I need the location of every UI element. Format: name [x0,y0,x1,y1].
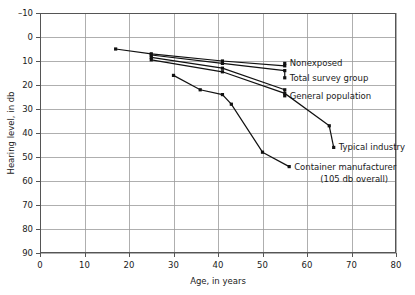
y-tick-label: 90 [22,248,33,258]
x-tick-label: 0 [37,260,42,270]
series-label: Typical industry [338,142,405,152]
x-tick-label: 10 [79,260,90,270]
label-anchor-point [332,146,335,149]
data-point [283,92,286,95]
y-axis-title: Hearing level, in db [6,91,16,174]
series-label: Nonexposed [290,58,343,68]
data-point [172,74,175,77]
data-point [199,88,202,91]
x-tick-label: 80 [391,260,402,270]
label-anchor-point [288,165,291,168]
series-label: Total survey group [289,73,369,83]
y-tick-label: 0 [28,32,33,42]
y-tick-label: 20 [22,80,33,90]
y-tick-label: 80 [22,224,33,234]
x-tick-label: 20 [124,260,135,270]
y-tick-label: 70 [22,200,33,210]
y-tick-label: 60 [22,176,33,186]
x-tick-label: 70 [346,260,357,270]
y-tick-label: 10 [22,56,33,66]
hearing-level-vs-age-chart: –10010203040506070809001020304050607080A… [0,0,415,295]
data-point [114,47,117,50]
series-label: Container manufacturer [294,162,397,172]
label-anchor-point [283,76,286,79]
series-label-sub: (105 db overall) [320,174,388,184]
label-anchor-point [283,62,286,65]
x-axis-title: Age, in years [190,276,246,286]
y-tick-label: 30 [22,104,33,114]
data-point [230,103,233,106]
y-tick-label: 40 [22,128,33,138]
data-point [221,67,224,70]
data-point [150,58,153,61]
y-tick-label: 50 [22,152,33,162]
x-tick-label: 50 [257,260,268,270]
x-tick-label: 60 [302,260,313,270]
data-point [221,70,224,73]
series-label: General population [290,91,371,101]
x-tick-label: 30 [168,260,179,270]
data-point [221,93,224,96]
plot-background [40,13,396,253]
x-tick-label: 40 [213,260,224,270]
chart-canvas: –10010203040506070809001020304050607080A… [0,0,415,295]
y-tick-label: –10 [18,8,33,18]
data-point [221,62,224,65]
